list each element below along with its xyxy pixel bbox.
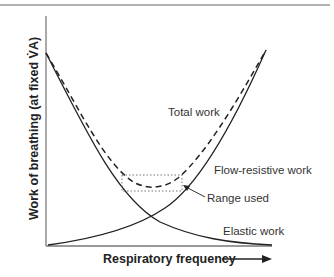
work-of-breathing-diagram: Total work Flow-resistive work Range use… <box>0 0 334 277</box>
y-axis-title: Work of breathing (at fixed V̇A) <box>26 37 41 220</box>
elastic-work-label: Elastic work <box>223 225 285 237</box>
range-used-label: Range used <box>207 192 269 204</box>
total-work-label: Total work <box>168 106 220 118</box>
right-arrow-icon <box>262 255 272 263</box>
elastic-work-curve <box>46 53 272 245</box>
flow-resistive-work-label: Flow-resistive work <box>214 164 312 176</box>
x-axis-title: Respiratory frequency <box>103 252 236 266</box>
range-used-pointer <box>186 187 205 197</box>
range-used-box <box>122 175 182 191</box>
flow-resistive-work-curve <box>48 50 266 245</box>
